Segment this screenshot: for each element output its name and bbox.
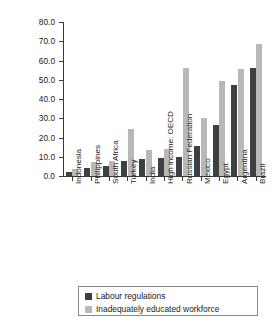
bar bbox=[84, 168, 90, 176]
x-axis-label: Argentina bbox=[241, 149, 249, 184]
bar-group bbox=[194, 22, 207, 176]
legend-item-label: Inadequately educated workforce bbox=[96, 305, 219, 314]
x-axis-label: Egypt bbox=[222, 163, 230, 184]
x-axis-label: South Africa bbox=[112, 140, 120, 184]
bar bbox=[176, 157, 182, 176]
y-axis-tick-label: 80.0 bbox=[15, 18, 55, 26]
y-axis-tick-label: 10.0 bbox=[15, 153, 55, 161]
y-axis-ticks: 80.070.060.050.040.030.020.010.00.0 bbox=[0, 0, 63, 330]
bar bbox=[231, 85, 237, 176]
bar bbox=[213, 125, 219, 176]
legend-item: Inadequately educated workforce bbox=[85, 303, 257, 315]
x-axis-tick-mark bbox=[201, 177, 202, 181]
legend-item-label: Labour regulations bbox=[96, 292, 165, 301]
bar bbox=[139, 159, 145, 176]
bar bbox=[158, 158, 164, 176]
x-axis-tick-mark bbox=[219, 177, 220, 181]
x-axis-label: Turkey bbox=[130, 160, 138, 184]
legend-swatch-icon bbox=[85, 306, 92, 313]
x-axis-label: India bbox=[149, 166, 157, 184]
y-axis-tick-label: 50.0 bbox=[15, 76, 55, 84]
x-axis-tick-mark bbox=[256, 177, 257, 181]
bar-group bbox=[213, 22, 226, 176]
x-axis-tick-mark bbox=[182, 177, 183, 181]
bar bbox=[219, 81, 225, 176]
x-axis-tick-mark bbox=[146, 177, 147, 181]
bar-group bbox=[139, 22, 152, 176]
x-axis-tick-mark bbox=[72, 177, 73, 181]
legend-item: Labour regulations bbox=[85, 290, 257, 302]
y-axis-tick-label: 0.0 bbox=[15, 172, 55, 180]
x-axis-tick-mark bbox=[109, 177, 110, 181]
bar-group bbox=[250, 22, 263, 176]
y-axis-tick-label: 40.0 bbox=[15, 95, 55, 103]
x-axis-label: High income: OECD bbox=[167, 111, 175, 184]
y-axis-tick-label: 20.0 bbox=[15, 134, 55, 142]
legend-swatch-icon bbox=[85, 293, 92, 300]
x-axis-label: Russian Federation bbox=[186, 114, 194, 184]
y-axis-tick-label: 60.0 bbox=[15, 57, 55, 65]
bar bbox=[250, 68, 256, 176]
bar-chart: Percent of firms identifying as a major … bbox=[0, 0, 277, 330]
bar bbox=[121, 161, 127, 176]
y-axis-tick-label: 70.0 bbox=[15, 37, 55, 45]
y-axis-tick-label: 30.0 bbox=[15, 114, 55, 122]
bar bbox=[194, 146, 200, 176]
x-axis-tick-mark bbox=[127, 177, 128, 181]
x-axis-label: Mexico bbox=[204, 158, 212, 184]
x-axis-tick-mark bbox=[164, 177, 165, 181]
bar-group bbox=[121, 22, 134, 176]
chart-legend: Labour regulationsInadequately educated … bbox=[78, 286, 258, 316]
x-axis-tick-mark bbox=[237, 177, 238, 181]
bar bbox=[256, 44, 262, 176]
x-axis-tick-mark bbox=[91, 177, 92, 181]
x-axis-label: Philippines bbox=[94, 145, 102, 184]
x-axis-label: Indonesia bbox=[75, 149, 83, 184]
x-axis-label: Brazil bbox=[259, 164, 267, 184]
bar bbox=[103, 166, 109, 176]
bar bbox=[66, 172, 72, 176]
